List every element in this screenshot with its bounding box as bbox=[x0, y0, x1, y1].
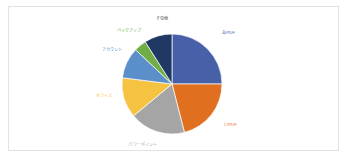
pie-slice-label: バックアップ bbox=[117, 27, 143, 33]
pie-slice-label: アカウント bbox=[102, 46, 123, 52]
pie-slice-label: オフィス bbox=[96, 93, 113, 98]
chart-frame: あPDFいPDFパワーポイントオフィスアカウントバックアップその他 bbox=[0, 0, 349, 163]
pie-chart: あPDFいPDFパワーポイントオフィスアカウントバックアップその他 bbox=[0, 0, 349, 163]
pie-slice-label: いPDF bbox=[224, 122, 237, 127]
pie-slice[interactable] bbox=[172, 34, 222, 84]
pie-slice-label: あPDF bbox=[222, 30, 235, 35]
pie-slice-group bbox=[122, 34, 222, 134]
pie-slice-label: その他 bbox=[156, 15, 168, 21]
pie-slice-label: パワーポイント bbox=[128, 141, 157, 147]
